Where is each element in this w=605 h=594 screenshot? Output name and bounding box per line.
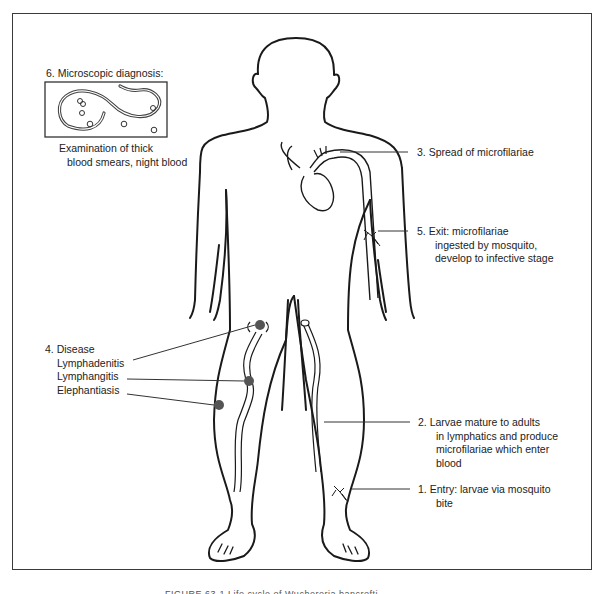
figure-caption: FIGURE 63-1 Life cycle of Wuchereria ban… [165, 586, 378, 594]
elephantiasis-node [214, 400, 224, 410]
larvae-line-3: blood [418, 457, 558, 471]
leader-lymphangitis [127, 379, 244, 381]
leader-lymphadenitis [133, 325, 255, 360]
mosquito-icon [332, 486, 348, 502]
head-outline [258, 38, 402, 168]
leader-elephantiasis [127, 394, 214, 405]
label-disease: 4. Disease Lymphadenitis Lymphangitis El… [45, 343, 124, 397]
left-arm [190, 172, 200, 318]
disease-item-lymphangitis: Lymphangitis [45, 370, 124, 384]
lymphadenitis-node [255, 320, 265, 330]
microscopic-line-2: blood smears, night blood [59, 156, 187, 170]
larvae-line-1: in lymphatics and produce [418, 430, 558, 444]
label-larvae: 2. Larvae mature to adults in lymphatics… [418, 416, 558, 470]
exit-line-1: ingested by mosquito, [417, 239, 554, 253]
disease-title: 4. Disease [45, 343, 124, 357]
label-microscopic-body: Examination of thick blood smears, night… [59, 142, 187, 169]
left-leg [209, 190, 294, 561]
exit-title: 5. Exit: microfilariae [417, 225, 554, 239]
label-spread: 3. Spread of microfilariae [417, 146, 534, 160]
label-exit: 5. Exit: microfilariae ingested by mosqu… [417, 225, 554, 266]
larvae-line-2: microfilariae which enter [418, 443, 558, 457]
heart-icon [281, 142, 378, 300]
disease-item-elephantiasis: Elephantiasis [45, 384, 124, 398]
label-microscopic-title: 6. Microscopic diagnosis: [46, 67, 163, 81]
entry-title: 1. Entry: larvae via mosquito [418, 483, 550, 497]
entry-line-1: bite [418, 497, 550, 511]
disease-item-lymphadenitis: Lymphadenitis [45, 357, 124, 371]
larvae-title: 2. Larvae mature to adults [418, 416, 558, 430]
lymphatic-vessels [234, 320, 321, 492]
lymphangitis-node [244, 376, 254, 386]
microscopic-line-1: Examination of thick [59, 142, 187, 156]
label-entry: 1. Entry: larvae via mosquito bite [418, 483, 550, 510]
right-arm [402, 168, 414, 318]
exit-line-2: develop to infective stage [417, 252, 554, 266]
